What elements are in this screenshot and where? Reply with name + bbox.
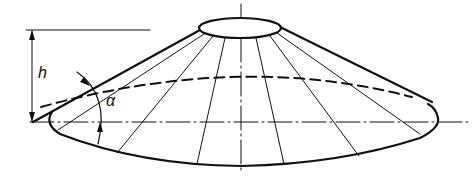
height-label: h (38, 64, 47, 82)
hidden-rim-dashed (41, 77, 412, 107)
cone-right-edge (282, 28, 432, 102)
angle-arrow-bottom-icon (97, 122, 103, 132)
cone-drawing (0, 0, 476, 182)
top-ellipse (199, 18, 281, 38)
meridian-lines (42, 32, 420, 164)
angle-arc (77, 72, 101, 144)
bottom-rim (49, 104, 438, 166)
angle-label: α (106, 92, 115, 110)
cone-left-edge (33, 30, 200, 122)
arrow-up-icon (29, 30, 35, 40)
